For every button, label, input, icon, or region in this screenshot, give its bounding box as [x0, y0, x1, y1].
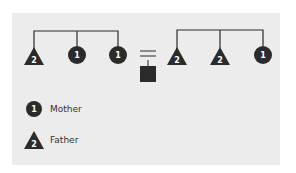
svg-text:1: 1 — [115, 51, 121, 60]
legend-father-icon: 2 — [24, 131, 44, 149]
legend-mother-icon: 1 — [26, 101, 42, 117]
svg-text:1: 1 — [31, 105, 37, 114]
father-node: 2 — [167, 47, 187, 65]
legend-father-label: Father — [50, 135, 78, 145]
pedigree-diagram: 2 1 1 2 2 1 — [0, 0, 296, 173]
svg-text:2: 2 — [31, 56, 37, 65]
father-node: 2 — [210, 47, 230, 65]
mother-node: 1 — [68, 46, 86, 64]
left-group-nodes: 2 1 1 — [24, 46, 127, 65]
result-square — [140, 66, 156, 82]
svg-text:2: 2 — [174, 56, 180, 65]
father-node: 2 — [24, 47, 44, 65]
right-group-nodes: 2 2 1 — [167, 46, 272, 65]
mother-node: 1 — [109, 46, 127, 64]
svg-text:2: 2 — [31, 140, 37, 149]
legend-mother-label: Mother — [50, 104, 82, 114]
svg-text:2: 2 — [217, 56, 223, 65]
svg-text:1: 1 — [260, 51, 266, 60]
equals-icon — [140, 51, 156, 67]
svg-text:1: 1 — [74, 51, 80, 60]
mother-node: 1 — [254, 46, 272, 64]
